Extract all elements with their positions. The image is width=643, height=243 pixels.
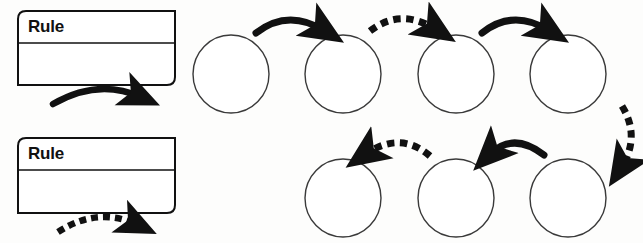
arrow-6-7 [364, 143, 430, 156]
node-6[interactable] [418, 159, 494, 237]
node-7[interactable] [305, 159, 381, 237]
rule-box-solid-label: Rule [28, 18, 64, 35]
arrow-4-5 [621, 106, 631, 168]
arrow-5-6 [489, 143, 544, 155]
node-3[interactable] [418, 35, 494, 113]
arrow-2-3 [370, 19, 437, 31]
rule-box-solid-arrow [53, 89, 141, 104]
rule-box-dashed-arrow [58, 217, 138, 232]
node-2[interactable] [305, 35, 381, 113]
rule-box-dashed-label: Rule [28, 145, 64, 162]
arrow-3-4 [482, 20, 550, 33]
diagram-svg [0, 0, 643, 243]
arrow-1-2 [256, 20, 325, 33]
node-5[interactable] [530, 159, 606, 237]
node-1[interactable] [193, 35, 269, 113]
diagram-canvas: Rule Rule [0, 0, 643, 243]
node-4[interactable] [530, 35, 606, 113]
